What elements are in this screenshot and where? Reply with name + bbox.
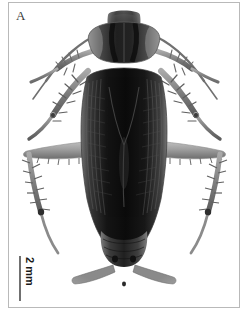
- figure-panel: A 2 mm: [0, 0, 246, 310]
- panel-label: A: [16, 9, 26, 22]
- frame-right-rule: [239, 2, 240, 308]
- scale-bar-label: 2 mm: [21, 257, 35, 301]
- frame-bottom-rule: [8, 307, 240, 308]
- scale-bar: 2 mm: [16, 256, 62, 304]
